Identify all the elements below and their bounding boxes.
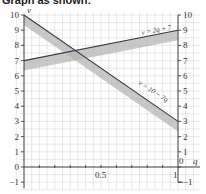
y-tick-left: 9 — [15, 25, 20, 35]
x-axis-label: q — [193, 156, 198, 166]
x-tick-half: 0.5 — [95, 170, 107, 180]
y-tick-right: 4 — [183, 101, 188, 111]
y-tick-left: 5 — [15, 86, 20, 96]
y-tick-right: 2 — [183, 132, 188, 142]
y-tick-right-zero: 0 — [179, 156, 184, 166]
y-tick-right: 8 — [183, 40, 188, 50]
y-tick-right: 5 — [183, 86, 188, 96]
y-tick-left: 10 — [10, 10, 20, 20]
y-tick-right: 9 — [183, 25, 188, 35]
x-tick-one: 1 — [173, 170, 178, 180]
y-tick-right: 7 — [183, 56, 188, 66]
y-tick-right: 3 — [183, 116, 188, 126]
y-tick-left: 3 — [15, 116, 20, 126]
y-tick-right: 6 — [183, 71, 188, 81]
y-tick-left: 2 — [15, 132, 20, 142]
y-tick-left: 4 — [15, 101, 20, 111]
y-tick-left: 0 — [15, 162, 20, 172]
chart-plot: 109876543210−110987654321−100.51 v = 2q … — [0, 0, 206, 194]
y-tick-left: 6 — [15, 71, 20, 81]
y-tick-left: 8 — [15, 40, 20, 50]
y-tick-left: 7 — [15, 56, 20, 66]
y-tick-right: 1 — [183, 147, 188, 157]
y-axis-label: v — [27, 5, 31, 15]
y-tick-right: −1 — [183, 177, 193, 187]
y-tick-right: 10 — [183, 10, 193, 20]
y-tick-left: −1 — [9, 177, 19, 187]
y-tick-left: 1 — [15, 147, 20, 157]
